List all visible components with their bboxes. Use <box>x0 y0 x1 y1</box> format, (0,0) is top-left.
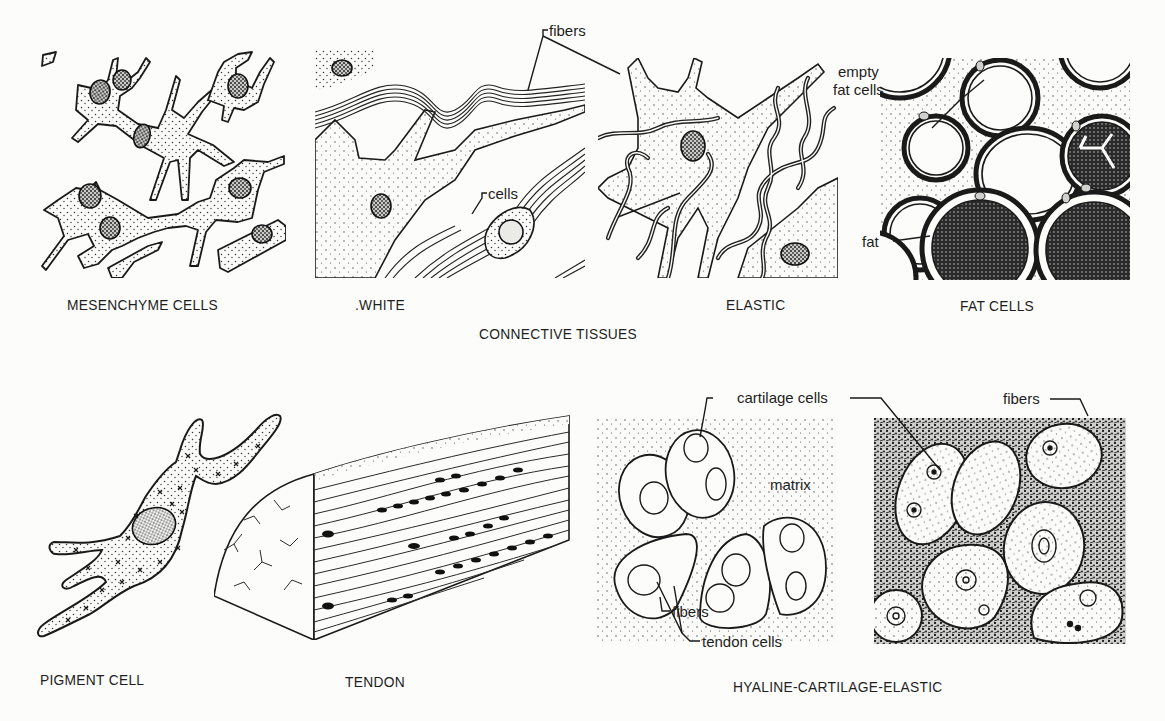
callout-empty-fat-cells-line2: fat cells <box>833 81 884 98</box>
callout-cells-top: cells <box>488 185 518 202</box>
mesenchyme-cells-illustration <box>38 50 286 278</box>
hyaline-cartilage-illustration <box>596 418 836 642</box>
callout-cartilage-cells: cartilage cells <box>737 389 828 406</box>
caption-elastic: ELASTIC <box>726 296 785 313</box>
caption-mesenchyme-cells: MESENCHYME CELLS <box>67 296 218 313</box>
callout-matrix: matrix <box>770 476 811 493</box>
elastic-cartilage-illustration <box>874 418 1126 644</box>
elastic-fibers-illustration <box>598 58 838 278</box>
caption-hyaline-cartilage-elastic: HYALINE-CARTILAGE-ELASTIC <box>733 678 943 695</box>
caption-pigment-cell: PIGMENT CELL <box>40 671 144 688</box>
tendon-illustration <box>214 410 574 640</box>
caption-tendon: TENDON <box>345 673 405 690</box>
callout-tendon-cells: tendon cells <box>702 633 782 650</box>
fat-cells-illustration <box>880 58 1130 280</box>
caption-white: .WHITE <box>355 296 405 313</box>
callout-empty-fat-cells-line1: empty <box>838 63 879 80</box>
callout-tendon-fibers: fibers <box>672 603 709 620</box>
white-fibers-illustration <box>315 50 585 278</box>
caption-fat-cells: FAT CELLS <box>960 297 1034 314</box>
callout-fat: fat <box>862 233 879 250</box>
section-title-connective-tissues: CONNECTIVE TISSUES <box>479 325 637 342</box>
callout-cartilage-fibers: fibers <box>1003 390 1040 407</box>
callout-fibers-top: fibers <box>549 22 586 39</box>
